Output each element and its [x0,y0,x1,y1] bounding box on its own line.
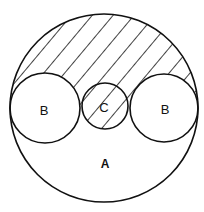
label-b-left: B [40,104,49,117]
label-b-right: B [161,103,170,116]
label-a: A [101,158,110,170]
venn-diagram: B C B A [0,0,204,212]
label-c: C [99,101,108,114]
